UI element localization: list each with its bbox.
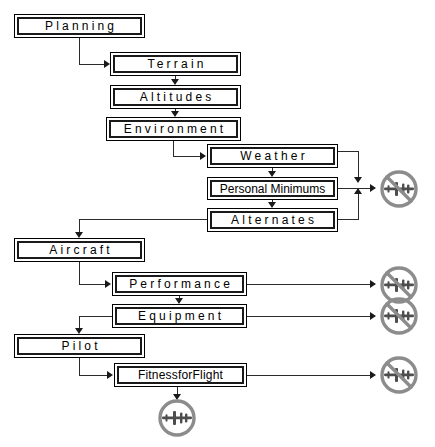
node-equipment[interactable]: Equipment xyxy=(112,304,247,328)
node-performance[interactable]: Performance xyxy=(112,272,247,296)
connector-fitness-to-no-fly xyxy=(247,375,374,376)
node-label-altitudes: Altitudes xyxy=(136,91,214,103)
connector-environment-weather-vertical xyxy=(173,141,174,156)
connector-weather-right-out xyxy=(338,151,359,152)
node-label-performance: Performance xyxy=(126,278,233,290)
connector-weather-right-down xyxy=(358,151,359,178)
node-environment[interactable]: Environment xyxy=(106,117,241,141)
connector-pilot-fitness-vertical xyxy=(79,358,80,375)
arrowhead-into-no-fly-fitness xyxy=(370,371,376,379)
node-label-planning: Planning xyxy=(42,20,118,32)
arrowhead-into-weather xyxy=(200,152,206,160)
node-label-aircraft: Aircraft xyxy=(46,244,113,256)
connector-alternates-right-out xyxy=(338,219,359,220)
no-fly-icon-fitness xyxy=(377,353,421,401)
node-pilot[interactable]: Pilot xyxy=(14,334,145,358)
node-label-pilot: Pilot xyxy=(58,340,101,352)
flowchart-canvas: Planning Terrain Altitudes Environment W… xyxy=(0,0,435,447)
connector-alternates-aircraft-horizontal xyxy=(79,219,208,220)
connector-aircraft-performance-vertical xyxy=(79,262,80,284)
node-label-personal-minimums: Personal Minimums xyxy=(220,183,325,195)
connector-environment-weather-horizontal xyxy=(173,156,201,157)
node-label-terrain: Terrain xyxy=(144,58,206,70)
node-label-fitness-for-flight: FitnessforFlight xyxy=(138,369,223,381)
connector-planning-terrain-horizontal xyxy=(79,64,104,65)
node-planning[interactable]: Planning xyxy=(14,14,145,38)
node-weather[interactable]: Weather xyxy=(207,144,338,168)
node-alternates[interactable]: Alternates xyxy=(207,208,338,232)
connector-performance-to-no-fly xyxy=(247,284,374,285)
connector-aircraft-performance-horizontal xyxy=(79,284,106,285)
arrowhead-into-no-fly-performance xyxy=(370,280,376,288)
node-aircraft[interactable]: Aircraft xyxy=(14,238,145,262)
connector-equipment-to-no-fly xyxy=(247,316,374,317)
connector-equipment-pilot-horizontal xyxy=(79,316,113,317)
no-fly-icon-weather xyxy=(377,167,421,215)
no-fly-icon-equipment xyxy=(377,294,421,342)
connector-pilot-fitness-horizontal xyxy=(79,375,108,376)
node-label-alternates: Alternates xyxy=(228,214,317,226)
node-fitness-for-flight[interactable]: FitnessforFlight xyxy=(114,363,247,387)
arrowhead-into-performance xyxy=(105,280,111,288)
connector-alternates-aircraft-vertical xyxy=(79,219,80,233)
arrowhead-into-no-fly-weather xyxy=(370,184,376,192)
node-label-environment: Environment xyxy=(121,123,227,135)
fly-icon-outcome xyxy=(155,396,199,444)
node-label-weather: Weather xyxy=(237,150,308,162)
arrowhead-into-fitness-for-flight xyxy=(107,371,113,379)
node-personal-minimums[interactable]: Personal Minimums xyxy=(207,177,338,200)
connector-planning-terrain-vertical xyxy=(79,38,80,64)
node-altitudes[interactable]: Altitudes xyxy=(110,85,241,109)
arrowhead-into-no-fly-equipment xyxy=(370,312,376,320)
arrowhead-weather-join xyxy=(354,177,362,183)
node-terrain[interactable]: Terrain xyxy=(110,52,241,76)
connector-alternates-right-up xyxy=(358,193,359,220)
connector-personal-minimums-to-no-fly xyxy=(338,188,374,189)
node-label-equipment: Equipment xyxy=(135,310,224,322)
